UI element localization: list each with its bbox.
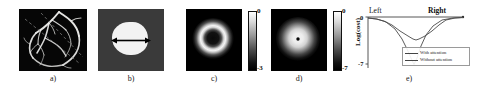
colorbar-d-min-label: -7 [342,64,348,72]
cost-surface-ring-image [186,9,242,71]
panel-c-caption: c) [186,74,242,83]
panel-e-cost-profile-chart: Log(cost) 0 -7 Left Right With attention [352,6,476,72]
cost-surface-blob-image [271,9,327,71]
legend-swatch-without-attention [405,60,418,61]
figure-panel-composite: a) b) [0,0,482,92]
colorbar-d [333,11,342,71]
colorbar-c-min-label: -3 [257,64,263,72]
y-axis-tick-top: 0 [360,14,363,21]
colorbar-d-max-label: 0 [342,7,346,15]
binary-mask-image [98,9,164,71]
panel-d-caption: d) [271,74,327,83]
panel-a-caption: a) [19,74,87,83]
angiogram-image [19,9,87,71]
colorbar-c [248,11,257,71]
legend-swatch-with-attention [405,53,418,54]
diameter-arrow-icon [110,36,152,45]
legend-label-without-attention: Without attention [420,57,452,62]
x-axis-label-left: Left [369,6,382,15]
y-axis-tick-bottom: -7 [358,60,363,67]
colorbar-c-max-label: 0 [257,7,261,15]
panel-b-caption: b) [98,74,164,83]
legend-label-with-attention: With attention [420,50,446,55]
panel-e-caption: e) [384,74,434,83]
chart-legend: With attention Without attention [402,47,470,66]
x-axis-label-right: Right [428,6,446,15]
